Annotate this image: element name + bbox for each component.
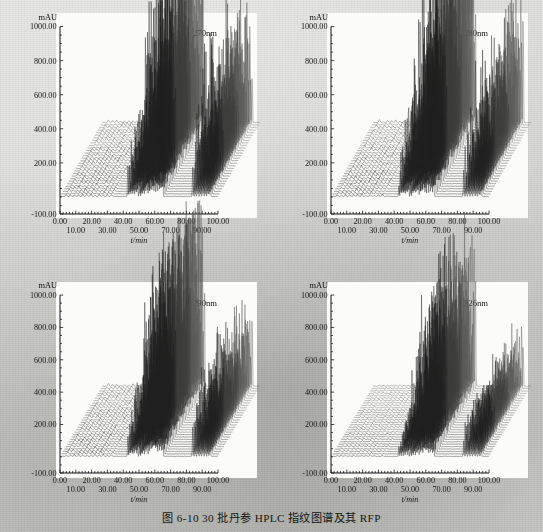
x-tick-label-lower: 70.00 [432,226,450,235]
x-tick-label-upper: 40.00 [385,217,403,226]
x-tick-label-lower: 50.00 [401,226,419,235]
x-tick-label-lower: 90.00 [193,226,211,235]
x-tick-label-upper: 20.00 [82,476,100,485]
y-tick-label: 600.00 [34,91,57,100]
x-tick-label-upper: 40.00 [114,217,132,226]
x-tick-label-lower: 90.00 [193,485,211,494]
x-tick-label-lower: 90.00 [464,226,482,235]
y-tick-label: 200.00 [305,420,328,429]
panel-270: 1000.00800.00600.00400.00200.00-100.00mA… [0,0,271,268]
y-tick-label: 600.00 [34,356,57,365]
y-tick-label: 800.00 [305,323,328,332]
x-tick-label-upper: 80.00 [448,217,466,226]
x-tick-label-lower: 10.00 [67,485,85,494]
y-tick-label: 600.00 [305,356,328,365]
x-tick-label-lower: 50.00 [130,485,148,494]
y-tick-label: 600.00 [305,91,328,100]
x-tick-label-upper: 60.00 [417,476,435,485]
y-axis-unit-label: mAU [309,13,328,22]
x-tick-label-upper: 40.00 [385,476,403,485]
y-tick-label: 200.00 [34,159,57,168]
y-tick-label: 400.00 [305,125,328,134]
x-tick-label-lower: 90.00 [464,485,482,494]
x-tick-label-lower: 10.00 [338,226,356,235]
x-axis-label: t/min [402,495,419,504]
chart-290: 1000.00800.00600.00400.00200.00-100.00mA… [0,268,271,508]
y-tick-label: 200.00 [34,420,57,429]
figure-caption: 图 6-10 30 批丹参 HPLC 指纹图谱及其 RFP [0,509,543,525]
y-axis-unit-label: mAU [38,13,57,22]
x-tick-label-upper: 0.00 [324,476,338,485]
x-tick-label-lower: 70.00 [161,485,179,494]
y-tick-label: 800.00 [305,57,328,66]
x-tick-label-upper: 60.00 [417,217,435,226]
x-tick-label-upper: 0.00 [53,476,67,485]
x-tick-label-upper: 100.00 [207,217,230,226]
x-tick-label-upper: 100.00 [207,476,230,485]
x-tick-label-upper: 80.00 [177,476,195,485]
x-tick-label-upper: 0.00 [324,217,338,226]
x-tick-label-upper: 40.00 [114,476,132,485]
x-tick-label-lower: 30.00 [98,485,116,494]
figure-panel-grid: 1000.00800.00600.00400.00200.00-100.00mA… [0,0,543,532]
x-axis-label: t/min [131,236,148,245]
y-axis-unit-label: mAU [309,281,328,290]
y-tick-label: 1000.00 [301,291,328,300]
x-tick-label-lower: 70.00 [432,485,450,494]
y-tick-label: 800.00 [34,323,57,332]
x-tick-label-upper: 100.00 [478,476,501,485]
panel-290: 1000.00800.00600.00400.00200.00-100.00mA… [0,268,271,508]
y-tick-label: 1000.00 [301,22,328,31]
x-tick-label-upper: 60.00 [146,217,164,226]
x-tick-label-upper: 0.00 [53,217,67,226]
x-tick-label-lower: 30.00 [98,226,116,235]
y-tick-label: 400.00 [34,125,57,134]
y-axis-unit-label: mAU [38,281,57,290]
y-tick-label: 200.00 [305,159,328,168]
x-axis-label: t/min [131,495,148,504]
x-tick-label-lower: 50.00 [401,485,419,494]
y-tick-label: 400.00 [305,388,328,397]
y-tick-label: 1000.00 [30,22,57,31]
x-tick-label-lower: 30.00 [369,485,387,494]
x-tick-label-upper: 60.00 [146,476,164,485]
x-tick-label-upper: 20.00 [82,217,100,226]
y-tick-label: 800.00 [34,57,57,66]
chart-280: 1000.00800.00600.00400.00200.00-100.00mA… [271,0,543,268]
y-tick-label: 1000.00 [30,291,57,300]
chart-326: 1000.00800.00600.00400.00200.00-100.00mA… [271,268,543,508]
x-tick-label-lower: 50.00 [130,226,148,235]
x-tick-label-upper: 20.00 [353,217,371,226]
x-tick-label-upper: 100.00 [478,217,501,226]
x-tick-label-upper: 20.00 [353,476,371,485]
x-tick-label-upper: 80.00 [448,476,466,485]
panel-326: 1000.00800.00600.00400.00200.00-100.00mA… [271,268,543,508]
x-tick-label-lower: 30.00 [369,226,387,235]
x-axis-label: t/min [402,236,419,245]
chart-270: 1000.00800.00600.00400.00200.00-100.00mA… [0,0,271,268]
x-tick-label-lower: 10.00 [338,485,356,494]
x-tick-label-lower: 10.00 [67,226,85,235]
y-tick-label: 400.00 [34,388,57,397]
panel-280: 1000.00800.00600.00400.00200.00-100.00mA… [271,0,543,268]
